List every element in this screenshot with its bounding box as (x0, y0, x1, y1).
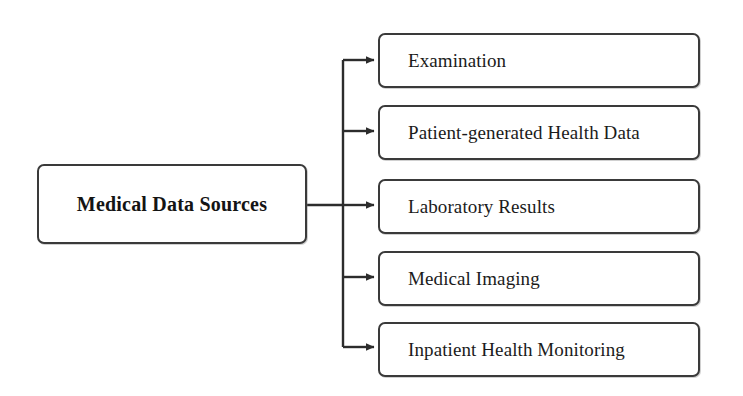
node-medical-imaging[interactable]: Medical Imaging (378, 251, 700, 306)
node-label-inpatient-health-monitoring: Inpatient Health Monitoring (380, 339, 625, 361)
node-label-laboratory-results: Laboratory Results (380, 196, 555, 218)
node-examination[interactable]: Examination (378, 33, 700, 88)
node-laboratory-results[interactable]: Laboratory Results (378, 179, 700, 234)
node-label-root: Medical Data Sources (77, 193, 267, 216)
node-label-patient-generated-health-data: Patient-generated Health Data (380, 122, 640, 144)
node-patient-generated-health-data[interactable]: Patient-generated Health Data (378, 105, 700, 160)
node-label-examination: Examination (380, 50, 506, 72)
node-inpatient-health-monitoring[interactable]: Inpatient Health Monitoring (378, 322, 700, 377)
node-label-medical-imaging: Medical Imaging (380, 268, 540, 290)
node-medical-data-sources[interactable]: Medical Data Sources (37, 164, 307, 244)
diagram-canvas: Medical Data Sources Examination Patient… (0, 0, 743, 396)
